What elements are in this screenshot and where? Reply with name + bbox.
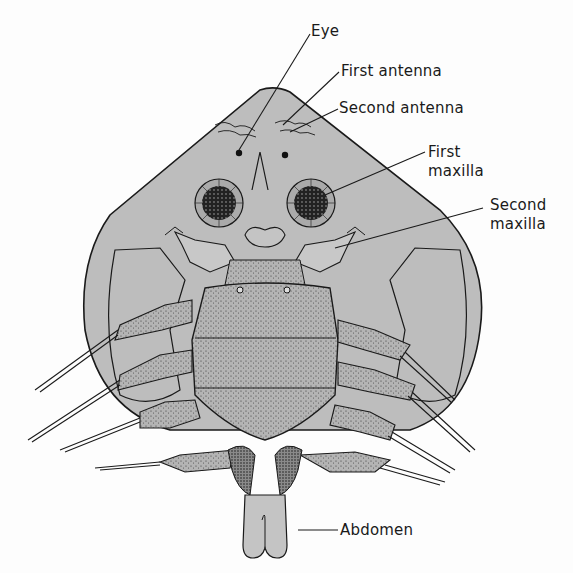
label-second-antenna: Second antenna <box>339 99 464 117</box>
label-first-maxilla-line1: First <box>428 143 461 161</box>
compound-eye-left <box>195 179 243 227</box>
thorax-anterior <box>225 260 305 285</box>
label-first-antenna: First antenna <box>341 62 442 80</box>
label-first-maxilla-line2: maxilla <box>428 162 484 180</box>
label-abdomen: Abdomen <box>340 521 413 539</box>
label-eye: Eye <box>311 22 339 40</box>
eye-dot-left <box>236 150 242 156</box>
label-second-maxilla-line2: maxilla <box>490 215 546 233</box>
larva-diagram: Eye First antenna Second antenna First m… <box>0 0 573 573</box>
eye-dot-right <box>282 152 288 158</box>
larva-illustration <box>0 0 573 573</box>
compound-eye-right <box>287 179 335 227</box>
label-second-maxilla-line1: Second <box>490 196 546 214</box>
